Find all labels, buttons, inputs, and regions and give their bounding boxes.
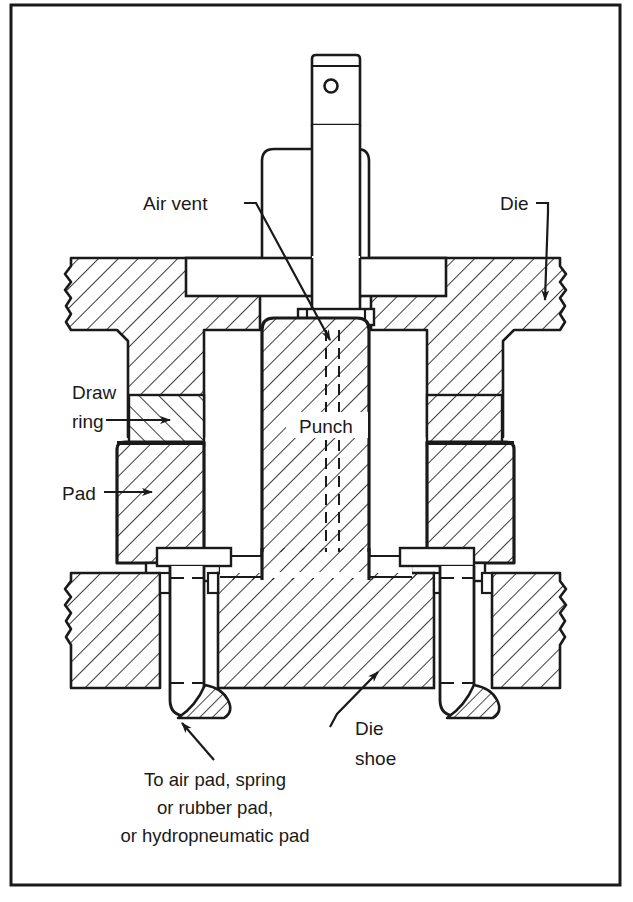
label-die: Die	[500, 193, 529, 214]
label-air-vent: Air vent	[143, 193, 208, 214]
label-pad: Pad	[62, 483, 96, 504]
die-shoe	[60, 569, 573, 693]
label-die-shoe-line1: Die	[355, 718, 384, 739]
label-draw-ring-line1: Draw	[72, 382, 117, 403]
label-draw-ring-line2: ring	[72, 411, 104, 432]
label-bottom-note-line3: or hydropneumatic pad	[120, 825, 309, 846]
draw-ring-right	[423, 391, 506, 449]
punch-holder-plate	[186, 256, 446, 298]
punch-shank-hole	[325, 80, 338, 93]
technical-diagram-figure: Air vent Die Draw ring Pad Punch Die sho…	[0, 0, 633, 902]
label-bottom-note-line1: To air pad, spring	[144, 769, 286, 790]
label-die-shoe-line2: shoe	[355, 748, 396, 769]
punch-shank	[312, 55, 360, 125]
label-punch: Punch	[299, 416, 353, 437]
diagram-svg: Air vent Die Draw ring Pad Punch Die sho…	[0, 0, 633, 902]
punch-body	[258, 314, 376, 578]
label-bottom-note-line2: or rubber pad,	[157, 797, 273, 818]
